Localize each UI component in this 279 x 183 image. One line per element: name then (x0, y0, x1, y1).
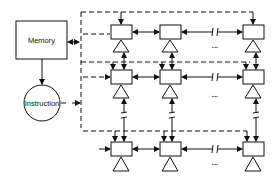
pe-row-2 (111, 70, 264, 98)
pe-row-3 (111, 142, 264, 171)
processor-array-diagram: Memory Instruction ... ... ... (0, 0, 279, 183)
memory-label: Memory (28, 36, 55, 45)
ellipsis-row-2: ... (212, 90, 218, 99)
ellipsis-row-1: ... (212, 41, 218, 50)
ellipsis-row-3: ... (212, 158, 218, 167)
pe-row-1 (111, 25, 264, 52)
instruction-label: Instruction (25, 99, 60, 108)
